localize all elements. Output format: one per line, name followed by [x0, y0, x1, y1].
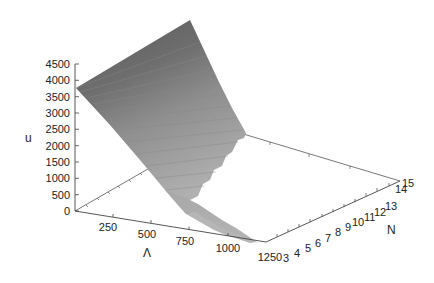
svg-text:4000: 4000 [46, 74, 70, 86]
back-edge-ticks [86, 173, 142, 207]
svg-text:7: 7 [325, 232, 331, 244]
svg-text:0: 0 [64, 205, 70, 217]
n-axis-tick-labels: 3 4 5 6 7 8 9 10 11 12 13 14 15 [283, 177, 414, 264]
svg-text:3: 3 [283, 252, 289, 264]
svg-text:500: 500 [138, 228, 156, 240]
svg-text:10: 10 [352, 216, 364, 228]
svg-text:8: 8 [335, 226, 341, 238]
svg-text:500: 500 [52, 189, 70, 201]
z-axis-tick-labels: 0 500 1000 1500 2000 2500 3000 3500 4000… [46, 58, 70, 217]
n-axis-label: N [387, 223, 396, 237]
z-axis-label: u [25, 131, 32, 145]
svg-text:1500: 1500 [46, 156, 70, 168]
svg-text:2500: 2500 [46, 123, 70, 135]
svg-text:1250: 1250 [258, 251, 282, 263]
svg-text:1000: 1000 [46, 172, 70, 184]
lambda-axis-label: Λ [143, 246, 151, 260]
z-axis-ticks [75, 64, 79, 211]
svg-text:13: 13 [385, 200, 397, 212]
surface-plot: 0 500 1000 1500 2000 2500 3000 3500 4000… [0, 0, 434, 283]
svg-text:15: 15 [402, 177, 414, 189]
svg-text:4: 4 [294, 247, 300, 259]
surface [76, 20, 258, 243]
svg-text:3000: 3000 [46, 107, 70, 119]
back-edge-ticks-2 [270, 142, 350, 169]
svg-text:6: 6 [315, 237, 321, 249]
svg-text:3500: 3500 [46, 91, 70, 103]
svg-text:2000: 2000 [46, 140, 70, 152]
axis-box-back [75, 133, 400, 211]
svg-text:5: 5 [305, 242, 311, 254]
svg-text:1000: 1000 [216, 242, 240, 254]
svg-text:250: 250 [99, 221, 117, 233]
svg-text:9: 9 [345, 221, 351, 233]
svg-text:4500: 4500 [46, 58, 70, 70]
svg-text:750: 750 [176, 235, 194, 247]
